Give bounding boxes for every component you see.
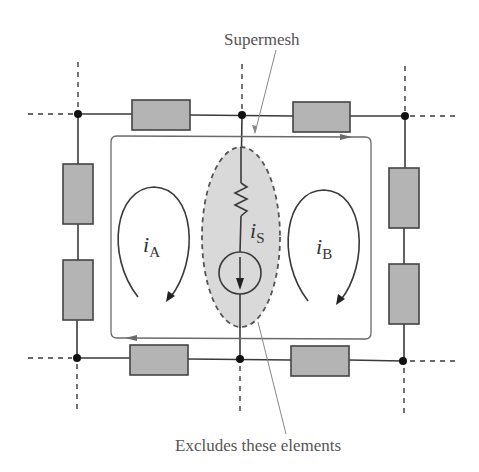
resistor-top-right (293, 102, 350, 132)
supermesh-diagram: iA iB iS Supermesh Excludes these elemen… (0, 0, 479, 472)
resistor-left-upper (63, 164, 93, 224)
resistor-right-lower (389, 264, 419, 324)
resistor-top-left (132, 100, 190, 130)
supermesh-arrow-right-icon (340, 134, 352, 140)
node-top-left (74, 110, 82, 118)
node-bottom-right (399, 357, 407, 365)
supermesh-leader-line (255, 50, 276, 133)
resistor-bottom-right (291, 346, 349, 376)
mesh-current-A-label: iA (143, 232, 160, 260)
node-bottom-middle (236, 355, 244, 363)
resistor-bottom-left (130, 345, 188, 375)
supermesh-label: Supermesh (224, 30, 300, 49)
excludes-label: Excludes these elements (175, 436, 341, 455)
node-top-middle (238, 111, 246, 119)
supermesh-arrow-left-icon (125, 335, 137, 341)
resistor-right-upper (389, 168, 419, 228)
node-top-right (401, 112, 409, 120)
node-bottom-left (73, 354, 81, 362)
resistor-left-lower (63, 260, 93, 320)
mesh-current-B-label: iB (316, 234, 332, 262)
